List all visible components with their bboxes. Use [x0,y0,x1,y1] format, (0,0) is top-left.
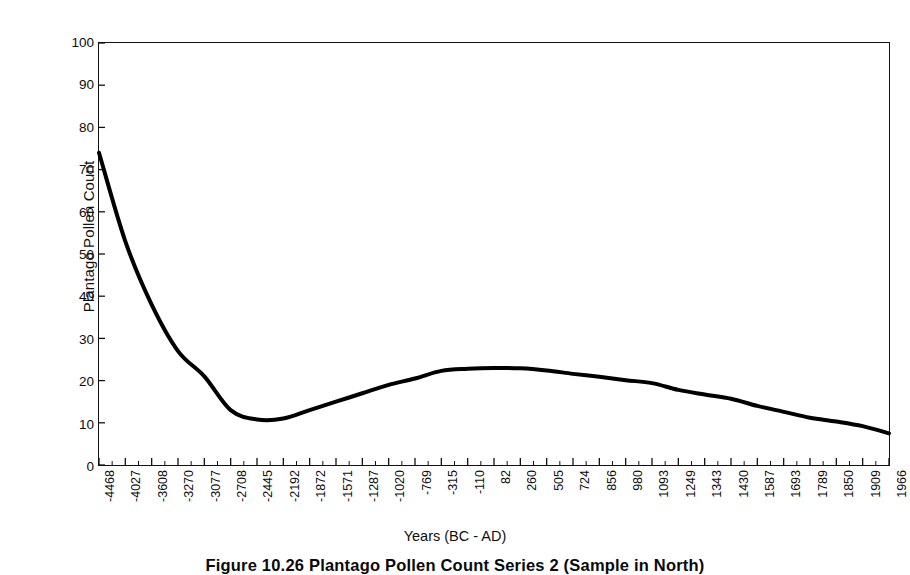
x-tick-label: 82 [499,470,513,484]
x-tick-label: 1789 [816,470,830,498]
x-tick-label: 1093 [657,470,671,498]
x-tick-label: -1571 [341,470,355,502]
figure-page: Plantago Pollen Count 010203040506070809… [0,0,910,575]
x-tick-label: 1587 [763,470,777,498]
x-tick-label: -3270 [182,470,196,502]
x-axis-title: Years (BC - AD) [0,528,910,544]
x-tick-label: -769 [420,470,434,495]
x-tick-label: 1430 [737,470,751,498]
x-tick-label: 1850 [842,470,856,498]
figure-caption: Figure 10.26 Plantago Pollen Count Serie… [0,556,910,575]
axis-tick-marks [99,43,889,465]
plot-area [98,42,890,466]
x-tick-label: -110 [473,470,487,494]
y-tick-label: 30 [79,331,94,346]
x-tick-label: 1909 [869,470,883,498]
x-tick-label: 260 [525,470,539,491]
y-tick-label: 90 [79,77,94,92]
x-tick-label: -315 [446,470,460,495]
x-tick-label: 856 [605,470,619,491]
x-tick-label: 1966 [895,470,909,498]
x-tick-label: 724 [578,470,592,491]
y-tick-label: 20 [79,374,94,389]
y-tick-label: 100 [71,35,94,50]
y-tick-label: 0 [86,459,94,474]
x-tick-label: -4468 [103,470,117,502]
x-tick-label: -1020 [393,470,407,502]
x-tick-label: 1693 [789,470,803,498]
x-tick-label: 1343 [710,470,724,498]
x-tick-label: -3077 [209,470,223,502]
x-tick-label: -1287 [367,470,381,502]
series-line-svg [99,43,889,465]
x-tick-label: 1249 [684,470,698,498]
y-tick-label: 60 [79,204,94,219]
y-tick-label: 50 [79,247,94,262]
pollen-count-chart: Plantago Pollen Count 010203040506070809… [0,0,910,575]
x-axis-tick-labels: -4468-4027-3608-3270-3077-2708-2445-2192… [98,470,890,528]
x-tick-label: -2708 [235,470,249,502]
y-tick-label: 70 [79,162,94,177]
x-tick-label: 980 [631,470,645,491]
x-tick-label: -3608 [156,470,170,502]
y-tick-label: 40 [79,289,94,304]
x-tick-label: -4027 [129,470,143,502]
plantago-series-line [99,153,889,434]
y-tick-label: 80 [79,119,94,134]
y-axis-tick-labels: 0102030405060708090100 [54,0,94,575]
x-tick-label: -1872 [314,470,328,502]
x-tick-label: 505 [552,470,566,491]
y-tick-label: 10 [79,416,94,431]
x-tick-label: -2445 [261,470,275,502]
x-tick-label: -2192 [288,470,302,502]
